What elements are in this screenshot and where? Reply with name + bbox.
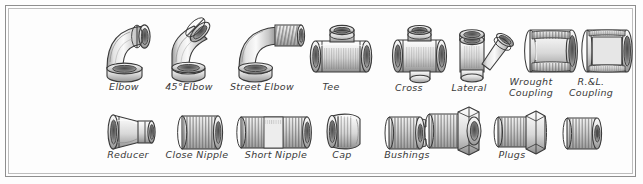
label-close-nipple: Close Nipple [158,150,236,161]
label-elbow: Elbow [98,82,150,93]
fitting-plug-one [494,111,546,154]
label-wrought-coupling-line1: Wrought [500,76,562,87]
label-wrought-coupling-line2: Coupling [500,87,562,98]
fitting-rl-coupling [582,30,632,72]
label-tee: Tee [310,82,352,93]
fitting-bushing-two [425,107,481,155]
fitting-cross [393,26,447,83]
fitting-bushing-one [385,117,426,149]
fitting-45-elbow [172,14,213,82]
fitting-reducer [108,115,155,149]
label-rl-coupling-line2: Coupling [562,87,620,98]
fitting-close-nipple [178,116,223,149]
label-rl-coupling-line1: R.&L. [562,76,620,87]
label-bushings: Bushings [375,150,439,161]
label-45-elbow: 45°Elbow [157,82,221,93]
fitting-tee [310,25,371,72]
label-short-nipple: Short Nipple [236,150,316,161]
label-cross: Cross [385,83,433,94]
fitting-plug-two [563,118,602,149]
illustration-plate: Elbow 45°Elbow Street Elbow Tee Cross La… [0,0,643,184]
fitting-street-elbow [239,25,305,82]
label-plugs: Plugs [487,150,537,161]
fitting-wrought-coupling [525,30,578,72]
label-street-elbow: Street Elbow [222,82,302,93]
label-cap: Cap [322,150,362,161]
label-lateral: Lateral [442,83,496,94]
fitting-short-nipple [237,117,312,148]
label-reducer: Reducer [98,150,158,161]
fitting-cap [327,114,360,149]
fitting-elbow [107,25,154,82]
fitting-lateral [460,30,516,82]
